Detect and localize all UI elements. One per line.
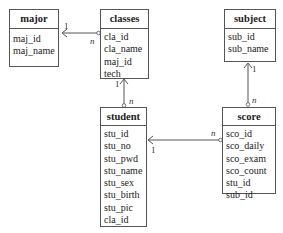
entity-classes[interactable]: classes cla_id cla_name maj_id tech: [100, 9, 149, 79]
attribute: sco_daily: [226, 140, 275, 152]
card-score-n2: n: [211, 128, 216, 138]
attribute: tech: [104, 68, 148, 80]
attribute: stu_id: [104, 128, 146, 140]
attribute: cla_name: [104, 43, 148, 55]
attribute: sub_name: [228, 43, 275, 55]
entity-subject[interactable]: subject sub_id sub_name: [224, 9, 276, 62]
attribute: maj_id: [104, 56, 148, 68]
card-student-1: 1: [151, 145, 156, 155]
attribute: stu_pic: [104, 202, 146, 214]
entity-title: student: [101, 108, 146, 126]
attribute: stu_sex: [104, 177, 146, 189]
entity-title: major: [10, 10, 58, 29]
attribute: sub_id: [228, 31, 275, 43]
card-score-n: n: [252, 95, 257, 105]
attribute: sco_exam: [226, 153, 275, 165]
relation-score-student: 1 n: [148, 128, 222, 155]
card-classes: n: [90, 36, 95, 46]
attribute: stu_id: [226, 177, 275, 189]
attribute: maj_name: [13, 45, 58, 57]
entity-student[interactable]: student stu_id stu_no stu_pwd stu_name s…: [100, 107, 147, 227]
relation-student-classes: 1 n: [115, 79, 134, 107]
entity-score[interactable]: score sco_id sco_daily sco_exam sco_coun…: [222, 107, 276, 194]
attribute: sco_id: [226, 128, 275, 140]
entity-title: score: [223, 108, 275, 126]
attribute: stu_pwd: [104, 153, 146, 165]
card-subject-1: 1: [252, 64, 257, 74]
attribute: sub_id: [226, 189, 275, 201]
relation-classes-major: 1 n: [62, 21, 100, 46]
entity-title: subject: [225, 10, 275, 29]
attribute: stu_name: [104, 165, 146, 177]
attribute: maj_id: [13, 33, 58, 45]
card-major: 1: [64, 21, 69, 31]
relation-score-subject: 1 n: [244, 63, 257, 106]
attribute: stu_no: [104, 140, 146, 152]
entity-title: classes: [101, 10, 148, 29]
card-student-n: n: [129, 96, 134, 106]
attribute: cla_id: [104, 214, 146, 226]
attribute: stu_birth: [104, 189, 146, 201]
attribute: cla_id: [104, 31, 148, 43]
card-classes-1: 1: [115, 79, 120, 89]
entity-major[interactable]: major maj_id maj_name: [9, 9, 59, 67]
attribute: sco_count: [226, 165, 275, 177]
